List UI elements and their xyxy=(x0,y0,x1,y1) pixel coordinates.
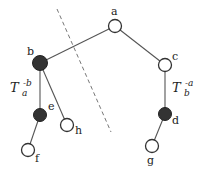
svg-text:T: T xyxy=(172,80,182,95)
node-f xyxy=(22,144,35,157)
label-a: a xyxy=(111,5,118,18)
svg-text:-a: -a xyxy=(185,78,193,88)
svg-text:T: T xyxy=(10,80,20,95)
label-e: e xyxy=(48,100,55,113)
label-h: h xyxy=(75,124,82,137)
label-g: g xyxy=(147,154,154,167)
edge-a-c xyxy=(115,26,165,65)
node-b xyxy=(33,56,48,71)
label-d: d xyxy=(172,114,179,127)
tree-diagram: a b c e h f d g T a -b T b -a xyxy=(0,0,206,173)
label-f: f xyxy=(35,152,40,165)
subtree-label-left: T a -b xyxy=(10,78,32,98)
node-g xyxy=(146,140,159,153)
svg-text:b: b xyxy=(184,88,190,98)
subtree-label-right: T b -a xyxy=(172,78,193,98)
svg-text:a: a xyxy=(22,88,27,98)
label-c: c xyxy=(172,50,178,63)
edge-a-b xyxy=(40,26,115,63)
svg-text:-b: -b xyxy=(23,78,32,88)
node-d xyxy=(159,108,172,121)
node-e xyxy=(34,109,47,122)
node-h xyxy=(61,119,74,132)
label-b: b xyxy=(27,45,34,58)
node-a xyxy=(109,20,122,33)
dashed-cut-line xyxy=(57,9,111,132)
node-c xyxy=(159,59,172,72)
